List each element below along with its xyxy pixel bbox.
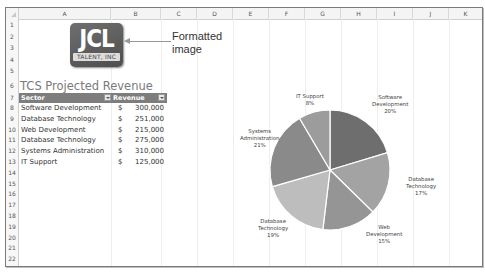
logo-sub-text: TALENT, INC (73, 53, 120, 61)
row-header-13[interactable]: 13 (6, 157, 19, 168)
cell-revenue[interactable]: 300,000 (135, 103, 164, 114)
data-label-software-development[interactable]: SoftwareDevelopment20% (372, 94, 408, 115)
data-label-it-support[interactable]: IT Support8% (296, 93, 324, 107)
callout-arrow-icon (125, 41, 171, 42)
pie-chart[interactable]: SoftwareDevelopment20% DatabaseTechnolog… (238, 88, 448, 267)
cell-revenue[interactable]: 215,000 (135, 125, 164, 136)
cell-sector[interactable]: IT Support (21, 157, 57, 168)
column-header-h[interactable]: H (341, 8, 377, 19)
cell-sector[interactable]: Database Technology (21, 114, 96, 125)
table-row[interactable]: Web Development $ 215,000 (19, 125, 167, 136)
column-header-k[interactable]: K (449, 8, 483, 19)
callout-line-1: Formatted (172, 30, 222, 43)
row-header-11[interactable]: 11 (6, 135, 19, 146)
callout-line-2: image (172, 43, 222, 56)
row-header-1[interactable]: 1 (6, 19, 19, 31)
table-row[interactable]: Database Technology $ 251,000 (19, 114, 167, 125)
row-header-15[interactable]: 15 (6, 179, 19, 190)
row-header-9[interactable]: 9 (6, 114, 19, 125)
column-header-f[interactable]: F (269, 8, 305, 19)
revenue-table: Sector Revenue Software Development $ 30… (19, 93, 167, 168)
row-header-12[interactable]: 12 (6, 146, 19, 157)
column-header-bar: A B C D E F G H I J K (6, 8, 482, 20)
row-header-8[interactable]: 8 (6, 103, 19, 114)
column-header-a[interactable]: A (19, 8, 111, 19)
row-header-21[interactable]: 21 (6, 243, 19, 254)
data-label-database-technology-1[interactable]: DatabaseTechnology17% (406, 176, 436, 197)
data-label-systems-administration[interactable]: SystemsAdministration21% (240, 128, 279, 149)
row-header-16[interactable]: 16 (6, 189, 19, 200)
select-all-corner[interactable] (6, 8, 19, 19)
row-header-3[interactable]: 3 (6, 42, 19, 54)
row-header-2[interactable]: 2 (6, 31, 19, 43)
gridline (197, 19, 198, 266)
header-sector[interactable]: Sector (21, 94, 45, 102)
company-logo-image[interactable]: JCL TALENT, INC (70, 23, 123, 67)
filter-dropdown-sector-icon[interactable] (104, 94, 111, 101)
row-header-19[interactable]: 19 (6, 222, 19, 233)
cell-currency: $ (118, 114, 122, 125)
row-header-14[interactable]: 14 (6, 168, 19, 179)
cell-revenue[interactable]: 251,000 (135, 114, 164, 125)
column-header-c[interactable]: C (161, 8, 197, 19)
column-header-j[interactable]: J (413, 8, 449, 19)
row-header-18[interactable]: 18 (6, 211, 19, 222)
header-revenue[interactable]: Revenue (113, 94, 145, 102)
table-row[interactable]: IT Support $ 125,000 (19, 157, 167, 168)
cell-revenue[interactable]: 125,000 (135, 157, 164, 168)
table-header-row: Sector Revenue (19, 93, 167, 103)
row-header-6[interactable]: 6 (6, 77, 19, 93)
cell-sector[interactable]: Software Development (21, 103, 101, 114)
sheet-title: TCS Projected Revenue (20, 79, 153, 93)
cell-revenue[interactable]: 275,000 (135, 135, 164, 146)
data-label-web-development[interactable]: WebDevelopment15% (366, 224, 402, 245)
column-header-b[interactable]: B (111, 8, 161, 19)
cell-currency: $ (118, 146, 122, 157)
cell-sector[interactable]: Database Technology (21, 135, 96, 146)
row-header-5[interactable]: 5 (6, 65, 19, 77)
cell-revenue[interactable]: 310,000 (135, 146, 164, 157)
column-header-i[interactable]: I (377, 8, 413, 19)
cell-currency: $ (118, 103, 122, 114)
callout-label: Formatted image (172, 30, 222, 56)
row-header-7[interactable]: 7 (6, 93, 19, 103)
column-header-e[interactable]: E (233, 8, 269, 19)
spreadsheet-grid[interactable]: A B C D E F G H I J K 1 2 3 4 5 6 7 8 9 … (5, 7, 483, 267)
row-header-20[interactable]: 20 (6, 233, 19, 244)
column-header-d[interactable]: D (197, 8, 233, 19)
filter-dropdown-revenue-icon[interactable] (158, 94, 165, 101)
cell-currency: $ (118, 135, 122, 146)
cell-currency: $ (118, 125, 122, 136)
cell-currency: $ (118, 157, 122, 168)
cell-sector[interactable]: Web Development (21, 125, 86, 136)
table-row[interactable]: Database Technology $ 275,000 (19, 135, 167, 146)
column-header-g[interactable]: G (305, 8, 341, 19)
gridline (449, 19, 450, 266)
row-header-10[interactable]: 10 (6, 125, 19, 136)
gridline (233, 19, 234, 266)
table-row[interactable]: Systems Administration $ 310,000 (19, 146, 167, 157)
table-row[interactable]: Software Development $ 300,000 (19, 103, 167, 114)
logo-main-text: JCL (70, 26, 123, 52)
data-label-database-technology-2[interactable]: DatabaseTechnology19% (258, 218, 288, 239)
row-header-4[interactable]: 4 (6, 54, 19, 66)
row-header-22[interactable]: 22 (6, 254, 19, 266)
cell-sector[interactable]: Systems Administration (21, 146, 104, 157)
row-header-17[interactable]: 17 (6, 200, 19, 211)
